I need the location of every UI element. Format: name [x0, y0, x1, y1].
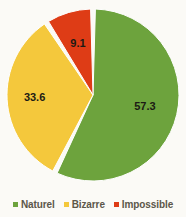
legend-item-bizarre[interactable]: Bizarre — [64, 199, 105, 210]
legend-swatch-icon — [13, 202, 18, 207]
legend-item-label: Impossible — [122, 199, 173, 210]
pie-chart: 57.3 33.6 9.1 Naturel Bizarre Impossible — [0, 0, 186, 217]
pie-plot-area: 57.3 33.6 9.1 — [0, 0, 186, 190]
chart-legend: Naturel Bizarre Impossible — [0, 194, 186, 214]
legend-item-label: Naturel — [21, 199, 55, 210]
legend-swatch-icon — [114, 202, 119, 207]
legend-swatch-icon — [64, 202, 69, 207]
pie-label-naturel: 57.3 — [134, 100, 155, 112]
pie-svg: 57.3 33.6 9.1 — [0, 0, 186, 190]
legend-item-impossible[interactable]: Impossible — [114, 199, 173, 210]
pie-label-impossible: 9.1 — [70, 37, 85, 49]
pie-label-bizarre: 33.6 — [24, 91, 45, 103]
legend-item-naturel[interactable]: Naturel — [13, 199, 55, 210]
legend-item-label: Bizarre — [72, 199, 105, 210]
